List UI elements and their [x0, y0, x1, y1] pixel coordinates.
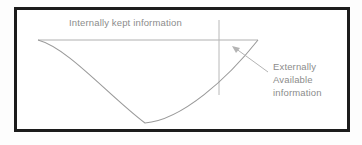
internally-kept-information-label: Internally kept information [69, 17, 182, 30]
external-label-line-2: Available [273, 73, 322, 86]
external-label-line-1: Externally [273, 60, 322, 73]
annotation-leader-line [235, 48, 268, 72]
externally-available-information-label: Externally Available information [273, 60, 322, 99]
information-curve [38, 40, 258, 123]
arrow-up-left-icon [232, 46, 240, 53]
figure-screenshot: Internally kept information Externally A… [0, 0, 362, 145]
external-label-line-3: information [273, 86, 322, 99]
